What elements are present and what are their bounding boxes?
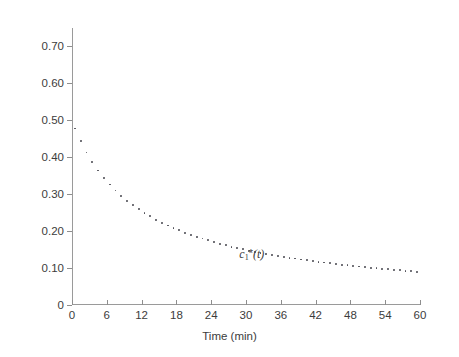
data-point xyxy=(178,229,180,231)
data-point xyxy=(103,177,105,179)
data-point xyxy=(335,263,337,265)
data-point xyxy=(109,184,111,186)
data-point xyxy=(173,227,175,229)
y-tick-label: 0 xyxy=(58,299,64,311)
data-point xyxy=(364,266,366,268)
x-tick-mark xyxy=(107,300,108,305)
data-point xyxy=(144,212,146,214)
data-point xyxy=(86,152,88,154)
data-point xyxy=(207,239,209,241)
data-point xyxy=(306,259,308,261)
x-tick-label: 36 xyxy=(274,309,287,321)
data-point xyxy=(115,190,117,192)
data-point xyxy=(219,243,221,245)
x-tick-label: 42 xyxy=(309,309,322,321)
data-point xyxy=(161,222,163,224)
data-point xyxy=(80,140,82,142)
y-tick-mark xyxy=(67,157,72,158)
y-tick-label: 0.20 xyxy=(42,225,64,237)
data-point xyxy=(376,267,378,269)
data-point xyxy=(138,208,140,210)
data-point xyxy=(126,200,128,202)
data-point xyxy=(167,225,169,227)
x-tick-label: 30 xyxy=(240,309,253,321)
data-point xyxy=(149,215,151,217)
x-tick-mark xyxy=(281,300,282,305)
x-tick-mark xyxy=(211,300,212,305)
data-point xyxy=(341,264,343,266)
data-point xyxy=(289,257,291,259)
x-axis-title: Time (min) xyxy=(0,330,459,342)
data-point xyxy=(381,268,383,270)
data-point xyxy=(132,204,134,206)
y-tick-label: 0.50 xyxy=(42,114,64,126)
x-tick-label: 54 xyxy=(379,309,392,321)
label-argument: (t) xyxy=(253,246,264,260)
x-tick-mark xyxy=(142,300,143,305)
y-tick-mark xyxy=(67,231,72,232)
data-point xyxy=(312,260,314,262)
y-tick-mark xyxy=(67,83,72,84)
data-point xyxy=(213,241,215,243)
data-point xyxy=(370,267,372,269)
plot-area: 00.100.200.300.400.500.600.70 0612182430… xyxy=(72,28,420,305)
data-point xyxy=(97,170,99,172)
y-tick-label: 0.10 xyxy=(42,262,64,274)
x-tick-label: 6 xyxy=(104,309,110,321)
data-point xyxy=(358,266,360,268)
data-point xyxy=(300,259,302,261)
data-point xyxy=(352,265,354,267)
data-point xyxy=(225,244,227,246)
y-axis-title: Concentration (mg/ml) xyxy=(6,0,28,23)
data-point xyxy=(387,268,389,270)
data-point xyxy=(323,262,325,264)
data-point xyxy=(271,254,273,256)
data-point xyxy=(277,255,279,257)
data-point xyxy=(196,236,198,238)
data-point xyxy=(120,195,122,197)
data-point xyxy=(399,269,401,271)
data-point xyxy=(283,256,285,258)
y-tick-mark xyxy=(67,194,72,195)
data-point xyxy=(329,262,331,264)
x-tick-label: 60 xyxy=(414,309,427,321)
x-tick-label: 12 xyxy=(135,309,148,321)
x-tick-mark xyxy=(72,300,73,305)
data-point xyxy=(318,261,320,263)
x-tick-label: 0 xyxy=(69,309,75,321)
x-tick-mark xyxy=(246,300,247,305)
data-point xyxy=(184,232,186,234)
data-point xyxy=(190,234,192,236)
y-tick-label: 0.40 xyxy=(42,151,64,163)
x-tick-mark xyxy=(176,300,177,305)
x-tick-mark xyxy=(350,300,351,305)
y-tick-mark xyxy=(67,268,72,269)
data-point xyxy=(410,270,412,272)
y-tick-label: 0.70 xyxy=(42,40,64,52)
data-point xyxy=(231,246,233,248)
data-point xyxy=(265,253,267,255)
y-tick-label: 0.30 xyxy=(42,188,64,200)
x-tick-label: 24 xyxy=(205,309,218,321)
curve-annotation-label: c1*(t) xyxy=(239,246,264,261)
data-point xyxy=(416,271,418,273)
data-point xyxy=(347,264,349,266)
y-tick-mark xyxy=(67,46,72,47)
data-point xyxy=(405,270,407,272)
x-tick-mark xyxy=(420,300,421,305)
concentration-decay-chart: Concentration (mg/ml) 00.100.200.300.400… xyxy=(0,0,459,357)
data-point xyxy=(202,238,204,240)
data-point xyxy=(155,219,157,221)
x-tick-label: 18 xyxy=(170,309,183,321)
y-tick-label: 0.60 xyxy=(42,77,64,89)
data-point xyxy=(91,161,93,163)
y-tick-mark xyxy=(67,120,72,121)
x-tick-label: 48 xyxy=(344,309,357,321)
y-tick-mark xyxy=(67,305,72,306)
data-point xyxy=(236,247,238,249)
data-point xyxy=(74,128,76,130)
data-point xyxy=(393,269,395,271)
data-point xyxy=(294,258,296,260)
x-tick-mark xyxy=(385,300,386,305)
x-tick-mark xyxy=(316,300,317,305)
